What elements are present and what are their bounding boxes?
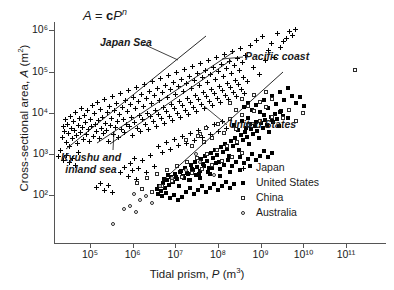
x-tick-label: 10¹⁰ — [283, 248, 323, 260]
annotation-line: Kyushu and — [61, 152, 121, 164]
data-point-united-states — [172, 193, 175, 196]
data-point-japan — [245, 79, 250, 84]
data-point-japan — [78, 130, 83, 135]
data-point-japan — [284, 36, 289, 41]
data-point-china — [155, 172, 159, 176]
data-point-japan — [190, 64, 195, 69]
data-point-japan — [197, 83, 202, 88]
y-tick-label: 10⁶ — [8, 23, 48, 35]
data-point-united-states — [232, 182, 235, 185]
data-point-japan — [278, 45, 283, 50]
data-point-japan — [173, 92, 178, 97]
x-tick-label: 10⁶ — [113, 248, 153, 260]
data-point-japan — [149, 101, 154, 106]
data-point-japan — [150, 79, 155, 84]
data-point-united-states — [246, 157, 249, 160]
legend-label: Japan — [256, 161, 285, 173]
data-point-japan — [181, 89, 186, 94]
data-point-japan — [81, 137, 86, 142]
data-point-australia — [132, 192, 136, 196]
data-point-united-states — [194, 173, 197, 176]
data-point-united-states — [234, 160, 237, 163]
data-point-united-states — [212, 182, 215, 185]
data-point-united-states — [242, 105, 245, 108]
data-point-japan — [293, 27, 298, 32]
data-point-japan — [104, 128, 109, 133]
data-point-united-states — [160, 194, 163, 197]
data-point-japan — [97, 136, 102, 141]
data-point-united-states — [233, 136, 236, 139]
data-point-china — [135, 181, 139, 185]
data-point-japan — [172, 137, 177, 142]
data-point-japan — [186, 112, 191, 117]
data-point-united-states — [200, 184, 203, 187]
data-point-china — [175, 164, 179, 168]
data-point-china — [353, 68, 357, 72]
data-point-united-states — [242, 161, 245, 164]
data-point-china — [190, 144, 194, 148]
data-point-japan — [110, 190, 115, 195]
data-point-japan — [224, 126, 229, 131]
data-point-china — [180, 175, 184, 179]
data-point-japan — [220, 119, 225, 124]
y-axis-units-exponent: 2 — [16, 48, 25, 52]
data-point-united-states — [168, 196, 171, 199]
data-point-united-states — [239, 133, 242, 136]
data-point-united-states — [189, 163, 192, 166]
data-point-united-states — [190, 167, 193, 170]
data-point-japan — [162, 121, 167, 126]
data-point-australia — [122, 207, 126, 211]
data-point-japan — [254, 38, 259, 43]
annotation-united-states: United States — [229, 119, 296, 131]
data-point-united-states — [228, 186, 231, 189]
data-point-japan — [144, 170, 149, 175]
data-point-japan — [275, 31, 280, 36]
data-point-united-states — [247, 142, 250, 145]
data-point-japan — [168, 147, 173, 152]
data-point-united-states — [216, 188, 219, 191]
annotation-kyushu-and-inland-sea: Kyushu andinland sea — [61, 152, 121, 176]
filled-square-icon — [241, 181, 244, 184]
data-point-japan — [122, 165, 127, 170]
y-tick-label: 10⁴ — [8, 106, 48, 118]
data-point-united-states — [184, 190, 187, 193]
data-point-china — [252, 93, 256, 97]
data-point-japan — [91, 134, 96, 139]
data-point-china — [264, 90, 268, 94]
data-point-china — [225, 144, 229, 148]
y-tick-label: 10⁵ — [8, 65, 48, 77]
data-point-united-states — [163, 186, 166, 189]
data-point-japan — [138, 129, 143, 134]
data-point-japan — [206, 58, 211, 63]
data-point-united-states — [282, 98, 285, 101]
data-point-china — [216, 122, 220, 126]
data-point-japan — [176, 143, 181, 148]
data-point-china — [165, 168, 169, 172]
data-point-united-states — [262, 98, 265, 101]
data-point-japan — [109, 116, 114, 121]
data-point-china — [202, 140, 206, 144]
data-point-japan — [105, 110, 110, 115]
data-point-japan — [202, 106, 207, 111]
equation-exponent: n — [122, 7, 127, 17]
data-point-japan — [130, 168, 135, 173]
data-point-united-states — [262, 149, 265, 152]
data-point-united-states — [180, 195, 183, 198]
annotation-line: Pacific coast — [245, 51, 309, 63]
data-point-japan — [146, 127, 151, 132]
annotation-line: inland sea — [61, 164, 121, 176]
data-point-united-states — [192, 192, 195, 195]
data-point-japan — [126, 174, 131, 179]
data-point-china — [222, 131, 226, 135]
data-point-japan — [110, 94, 115, 99]
data-point-japan — [130, 133, 135, 138]
data-point-united-states — [176, 198, 179, 201]
data-point-china — [230, 155, 234, 159]
data-point-japan — [102, 97, 107, 102]
data-point-china — [185, 160, 189, 164]
plot-area — [54, 22, 386, 243]
data-point-japan — [95, 100, 100, 105]
data-point-japan — [213, 77, 218, 82]
data-point-japan — [214, 55, 219, 60]
data-point-japan — [132, 120, 137, 125]
